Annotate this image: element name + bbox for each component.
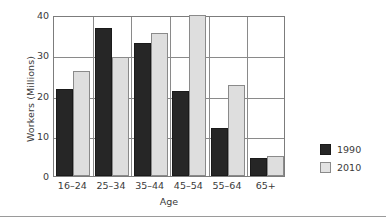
bar <box>211 128 228 176</box>
y-tick-label: 30 <box>31 51 49 61</box>
legend-item-label: 1990 <box>337 144 361 155</box>
y-tick-label: 40 <box>31 11 49 21</box>
x-tick-label: 55–64 <box>208 180 247 192</box>
x-axis-label: Age <box>53 196 285 208</box>
bar-chart-figure: Workers (Millions) 010203040 16–2425–343… <box>0 0 386 222</box>
legend-item: 2010 <box>320 159 382 175</box>
bar <box>151 33 168 176</box>
chart-legend: 19902010 <box>320 141 382 177</box>
x-tick-label: 25–34 <box>92 180 131 192</box>
bar <box>189 15 206 176</box>
legend-item: 1990 <box>320 141 382 157</box>
y-tick-label: 20 <box>31 92 49 102</box>
bar <box>250 158 267 176</box>
page-divider <box>0 216 386 217</box>
y-tick-label: 10 <box>31 132 49 142</box>
y-tick-label: 0 <box>31 172 49 182</box>
x-axis-tick-labels: 16–2425–3435–4445–5455–6465+ <box>53 180 285 194</box>
x-tick-label: 35–44 <box>130 180 169 192</box>
bar <box>267 156 284 176</box>
bar <box>134 43 151 176</box>
bar <box>112 57 129 176</box>
x-tick-label: 16–24 <box>53 180 92 192</box>
bar <box>228 85 245 176</box>
x-tick-label: 45–54 <box>169 180 208 192</box>
dark-square-swatch <box>320 144 331 155</box>
light-square-swatch <box>320 162 331 173</box>
bar <box>56 89 73 176</box>
x-tick-label: 65+ <box>246 180 285 192</box>
bar <box>172 91 189 176</box>
bar <box>95 28 112 176</box>
bar <box>73 71 90 176</box>
y-axis-tick-labels: 010203040 <box>31 0 49 222</box>
bar-group-container <box>54 17 284 176</box>
legend-item-label: 2010 <box>337 162 361 173</box>
plot-area <box>53 16 285 177</box>
